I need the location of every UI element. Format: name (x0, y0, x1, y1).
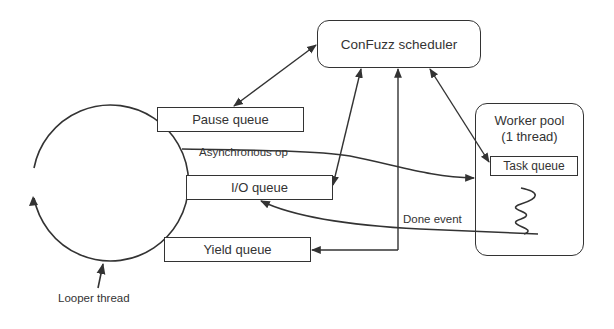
looper-thread-label: Looper thread (58, 292, 130, 304)
io-scheduler-arrow (333, 69, 361, 185)
pause-scheduler-arrow (234, 45, 316, 106)
pause-queue-label: Pause queue (192, 112, 269, 127)
pause-queue-box: Pause queue (157, 107, 304, 132)
yield-queue-label: Yield queue (203, 242, 271, 257)
async-op-label: Asynchronous op (199, 146, 288, 158)
yield-queue-box: Yield queue (164, 237, 311, 262)
worker-pool-title-line1: Worker pool (495, 113, 565, 129)
worker-pool-title: Worker pool (1 thread) (495, 113, 565, 145)
looper-loop-arrowhead (29, 196, 38, 206)
confuzz-scheduler-box: ConFuzz scheduler (317, 20, 481, 68)
looper-pointer-arrow (98, 264, 103, 288)
done-event-label: Done event (403, 213, 462, 225)
task-queue-box: Task queue (490, 156, 578, 176)
task-queue-label: Task queue (503, 159, 564, 173)
io-queue-box: I/O queue (186, 175, 333, 200)
worker-pool-title-line2: (1 thread) (495, 129, 565, 145)
worker-pool-box: Worker pool (1 thread) (475, 103, 584, 256)
io-queue-label: I/O queue (231, 180, 288, 195)
scheduler-label: ConFuzz scheduler (341, 37, 457, 52)
architecture-diagram: Worker pool (1 thread) ConFuzz scheduler… (0, 0, 614, 329)
